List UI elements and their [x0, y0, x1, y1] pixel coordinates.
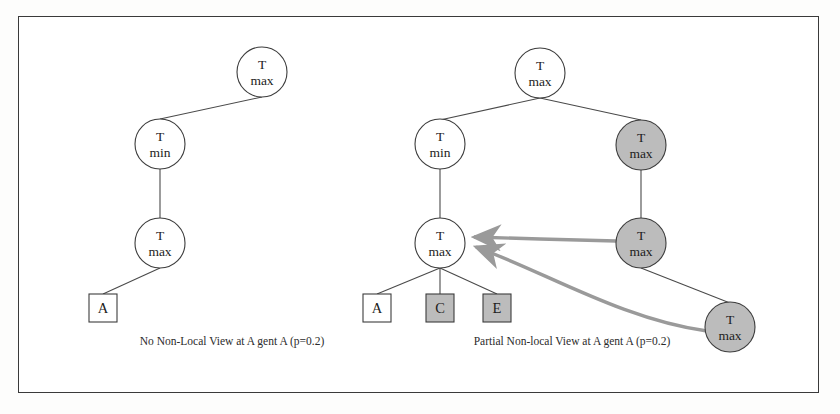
node-label-line2: min: [149, 145, 170, 160]
node-t-max-nonlocal-2[interactable]: T max: [616, 218, 666, 268]
node-label-line2: max: [629, 244, 652, 259]
node-label-line2: max: [629, 146, 652, 161]
node-t-max-nonlocal-3[interactable]: T max: [705, 302, 755, 352]
left-panel: T max T min T max A No Non-Local View at…: [89, 47, 324, 348]
box-agent-e[interactable]: E: [483, 294, 511, 322]
node-label-line1: T: [436, 129, 445, 144]
box-label: A: [372, 300, 383, 316]
node-label-line1: T: [536, 58, 545, 73]
figure-root: T max T min T max A No Non-Local View at…: [0, 0, 840, 414]
node-t-max-root[interactable]: T max: [515, 48, 565, 98]
node-label-line1: T: [726, 312, 735, 327]
node-label-line1: T: [637, 130, 646, 145]
node-label-line2: max: [428, 244, 451, 259]
node-label-line1: T: [637, 228, 646, 243]
node-t-max-lower[interactable]: T max: [135, 218, 185, 268]
node-label-line1: T: [436, 228, 445, 243]
node-t-min[interactable]: T min: [415, 119, 465, 169]
box-label: A: [98, 300, 109, 316]
edge-max-to-a: [103, 268, 160, 294]
edge-root-to-min: [160, 97, 262, 119]
box-agent-a[interactable]: A: [89, 294, 117, 322]
right-panel-caption: Partial Non-local View at A gent A (p=0.…: [474, 335, 671, 348]
diagram-canvas: T max T min T max A No Non-Local View at…: [0, 0, 840, 414]
node-t-min[interactable]: T min: [135, 119, 185, 169]
box-agent-c[interactable]: C: [426, 294, 454, 322]
edge-max-local-to-a: [377, 268, 440, 294]
box-label: E: [493, 300, 502, 316]
node-label-line2: min: [429, 145, 450, 160]
node-label-line2: max: [718, 328, 741, 343]
node-label-line2: max: [250, 73, 273, 88]
node-t-max-local[interactable]: T max: [415, 218, 465, 268]
left-panel-caption: No Non-Local View at A gent A (p=0.2): [140, 335, 325, 348]
edge-max-local-to-e: [440, 268, 497, 294]
node-label-line1: T: [156, 129, 165, 144]
node-label-line1: T: [156, 228, 165, 243]
right-panel: T max T min T max T max T max: [363, 48, 755, 352]
node-label-line1: T: [258, 57, 267, 72]
node-t-max-nonlocal-1[interactable]: T max: [616, 120, 666, 170]
left-panel-edges: [103, 97, 262, 294]
edge-root-to-nonlocal-1: [540, 98, 641, 120]
node-t-max-root[interactable]: T max: [237, 47, 287, 97]
node-label-line2: max: [148, 244, 171, 259]
box-agent-a[interactable]: A: [363, 294, 391, 322]
edge-root-to-min: [440, 98, 540, 120]
arrow-nonlocal-2-to-local: [474, 237, 616, 241]
node-label-line2: max: [528, 74, 551, 89]
box-label: C: [435, 300, 445, 316]
edge-nonlocal-2-to-nonlocal-3: [641, 268, 730, 303]
